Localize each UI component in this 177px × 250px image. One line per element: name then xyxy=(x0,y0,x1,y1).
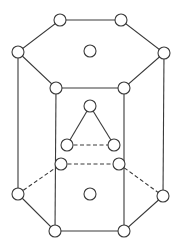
atom-bottom-back-left xyxy=(55,158,67,170)
vertical-edge-front-left xyxy=(55,88,56,231)
atom-mid-top xyxy=(84,100,96,112)
bottom-hexagon-back-right xyxy=(119,164,163,196)
atom-bottom-right xyxy=(157,190,169,202)
atoms xyxy=(12,14,170,237)
atom-mid-left xyxy=(61,139,73,151)
atom-bottom-center xyxy=(84,188,96,200)
atom-top-center xyxy=(84,45,96,57)
triangle-edge-right xyxy=(90,106,114,145)
vertical-edge-right xyxy=(163,53,164,196)
atom-bottom-front-left xyxy=(49,225,61,237)
atom-bottom-left xyxy=(12,188,24,200)
atom-top-left xyxy=(12,46,24,58)
atom-top-back-left xyxy=(54,14,66,26)
atom-bottom-back-right xyxy=(113,158,125,170)
atom-mid-right xyxy=(108,139,120,151)
atom-bottom-front-right xyxy=(118,225,130,237)
atom-top-front-right xyxy=(118,82,130,94)
atom-top-right xyxy=(158,47,170,59)
hcp-unit-cell-diagram xyxy=(0,0,177,250)
triangle-edge-left xyxy=(67,106,90,145)
bottom-hexagon-back-left xyxy=(18,164,61,194)
atom-top-back-right xyxy=(115,14,127,26)
atom-top-front-left xyxy=(50,82,62,94)
